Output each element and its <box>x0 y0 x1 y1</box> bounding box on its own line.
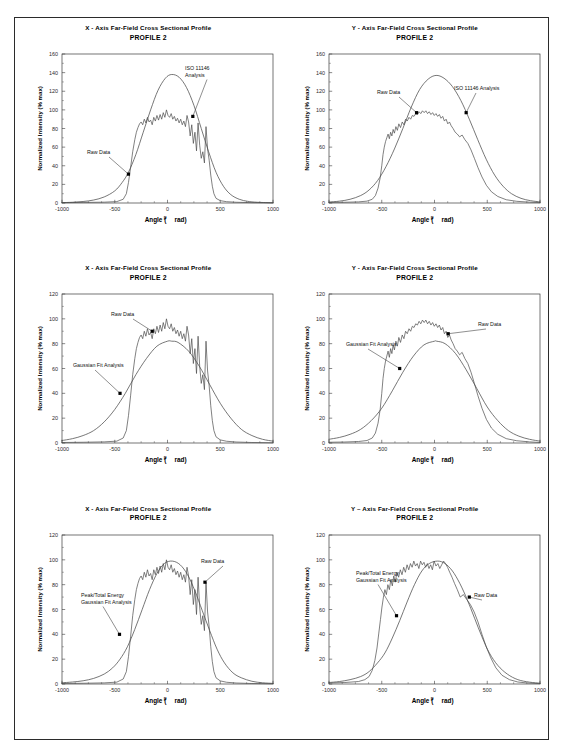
annotation-label: Raw Data <box>478 321 501 327</box>
x-tick-label: 500 <box>216 446 225 452</box>
chart-annotation: Gaussian Fit Analysis <box>73 362 124 395</box>
series-raw-data <box>62 110 273 203</box>
annotation-label-line2: Gaussian Fit Analysis <box>81 598 132 604</box>
panel-grid: X - Axis Far-Field Cross Sectional Profi… <box>15 18 548 739</box>
chart-title: X - Axis Far-Field Cross Sectional Profi… <box>15 24 282 32</box>
svg-text:µ: µ <box>430 455 433 460</box>
x-tick-label: 1000 <box>534 206 546 212</box>
chart-title-block: X - Axis Far-Field Cross Sectional Profi… <box>15 264 282 282</box>
x-tick-label: 500 <box>482 206 491 212</box>
y-tick-label: 60 <box>319 606 325 612</box>
chart-annotation: Raw Data <box>87 149 130 176</box>
y-tick-label: 40 <box>52 631 58 637</box>
annotation-leader-line <box>95 370 120 393</box>
y-axis-title: Normalized Intensity (% max) <box>36 567 43 652</box>
y-tick-label: 80 <box>319 126 325 132</box>
plot-svg: 020406080100120-1000-50005001000Angle (µ… <box>282 284 549 479</box>
y-tick-label: 60 <box>52 144 58 150</box>
series-fit-curve <box>62 74 273 202</box>
plot-area-wrapper: 020406080100120-1000-50005001000Angle (µ… <box>282 284 549 479</box>
annotation-leader-line <box>133 319 152 331</box>
y-tick-label: 120 <box>316 88 325 94</box>
x-tick-label: -500 <box>109 687 120 693</box>
annotation-label: Gaussian Fit Analysis <box>73 362 124 368</box>
x-axis-title: Angle (µ rad) <box>411 215 453 225</box>
annotation-leader-line <box>448 329 486 334</box>
y-tick-label: 160 <box>316 51 325 57</box>
plot-frame <box>329 535 540 684</box>
series-raw-data <box>329 111 540 203</box>
x-tick-label: -1000 <box>55 446 69 452</box>
chart-annotation: Raw Data <box>467 592 497 600</box>
chart-panel-3: X - Axis Far-Field Cross Sectional Profi… <box>15 258 282 498</box>
chart-title-block: X - Axis Far-Field Cross Sectional Profi… <box>15 505 282 523</box>
x-tick-label: 0 <box>166 687 169 693</box>
annotation-label: Peak/Total Energy <box>356 570 399 576</box>
series-fit-curve <box>329 341 540 441</box>
x-tick-label: -500 <box>109 206 120 212</box>
chart-subtitle: PROFILE 2 <box>282 514 549 522</box>
chart-annotation: ISO 11146 Analysis <box>454 85 500 114</box>
y-tick-label: 120 <box>49 532 58 538</box>
chart-title: Y - Axis Far-Field Cross Sectional Profi… <box>282 264 549 272</box>
annotation-marker <box>414 111 417 114</box>
chart-title-block: Y - Axis Far-Field Cross Sectional Profi… <box>282 24 549 42</box>
svg-text:rad): rad) <box>441 697 453 705</box>
y-tick-label: 120 <box>49 291 58 297</box>
plot-svg: 020406080100120140160-1000-50005001000An… <box>15 44 282 239</box>
chart-title-block: Y - Axis Far-Field Cross Sectional Profi… <box>282 264 549 282</box>
chart-panel-5: X - Axis Far-Field Cross Sectional Profi… <box>15 499 282 739</box>
chart-annotation: Raw Data <box>446 321 501 335</box>
annotation-leader-line <box>205 566 223 582</box>
svg-text:rad): rad) <box>174 456 186 464</box>
y-tick-label: 100 <box>49 107 58 113</box>
x-tick-label: 0 <box>433 206 436 212</box>
chart-panel-6: Y – Axis Far-Field Cross Sectional Profi… <box>282 499 549 739</box>
annotation-leader-line <box>193 80 207 117</box>
annotation-label: Raw Data <box>377 89 400 95</box>
y-tick-label: 40 <box>319 631 325 637</box>
annotation-marker <box>203 580 206 583</box>
x-tick-label: 0 <box>433 446 436 452</box>
chart-title: X - Axis Far-Field Cross Sectional Profi… <box>15 264 282 272</box>
x-tick-label: -500 <box>109 446 120 452</box>
annotation-marker <box>398 367 401 370</box>
svg-text:rad): rad) <box>441 216 453 224</box>
chart-annotation: Raw Data <box>201 558 224 584</box>
y-tick-label: 140 <box>49 70 58 76</box>
y-tick-label: 40 <box>319 391 325 397</box>
annotation-label: Peak/Total Energy <box>81 592 124 598</box>
x-tick-label: 1000 <box>534 687 546 693</box>
annotation-label-line2: Gaussian Fit Analysis <box>356 576 407 582</box>
annotation-leader-line <box>466 93 476 113</box>
x-tick-label: 500 <box>216 687 225 693</box>
chart-title: Y – Axis Far-Field Cross Sectional Profi… <box>282 505 549 513</box>
svg-text:rad): rad) <box>174 697 186 705</box>
annotation-leader-line <box>109 157 128 174</box>
annotation-marker <box>127 173 130 176</box>
y-axis-title: Normalized Intensity (% max) <box>303 567 310 652</box>
annotation-marker <box>394 614 397 617</box>
plot-frame <box>62 535 273 684</box>
x-tick-label: 0 <box>433 687 436 693</box>
annotation-label: Raw Data <box>87 149 110 155</box>
annotation-marker <box>446 332 449 335</box>
chart-panel-4: Y - Axis Far-Field Cross Sectional Profi… <box>282 258 549 498</box>
svg-text:µ: µ <box>164 455 167 460</box>
x-tick-label: 500 <box>216 206 225 212</box>
annotation-marker <box>191 115 194 118</box>
svg-text:µ: µ <box>430 695 433 700</box>
chart-title: X - Axis Far-Field Cross Sectional Profi… <box>15 505 282 513</box>
chart-subtitle: PROFILE 2 <box>282 274 549 282</box>
chart-annotation: Peak/Total EnergyGaussian Fit Analysis <box>81 592 132 636</box>
annotation-label: ISO 11146 <box>185 65 210 71</box>
annotation-marker <box>464 111 467 114</box>
svg-text:rad): rad) <box>441 456 453 464</box>
y-tick-label: 160 <box>49 51 58 57</box>
chart-subtitle: PROFILE 2 <box>15 514 282 522</box>
y-axis-title: Normalized Intensity (% max) <box>303 327 310 412</box>
annotation-marker <box>151 330 154 333</box>
x-tick-label: -1000 <box>322 206 336 212</box>
y-tick-label: 20 <box>52 656 58 662</box>
annotation-label: Raw Data <box>474 592 497 598</box>
